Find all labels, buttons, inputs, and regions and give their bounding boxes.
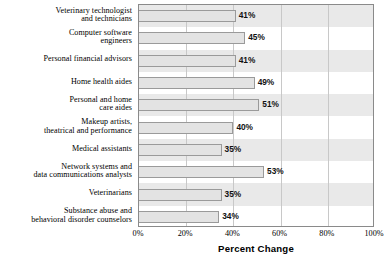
category-label-line: Personal financial advisors — [0, 55, 132, 64]
bar-value-label: 51% — [262, 99, 279, 109]
bar-value-label: 35% — [225, 189, 242, 199]
value-label-layer: 41%45%41%49%51%40%35%53%35%34% — [138, 4, 391, 227]
x-axis-tick-label: 0% — [133, 229, 144, 238]
bar-value-label: 34% — [222, 211, 239, 221]
x-axis-tick-label: 100% — [364, 229, 383, 238]
category-label-line: theatrical and performance — [0, 127, 132, 136]
bar-value-label: 53% — [267, 166, 284, 176]
category-label: Veterinarians — [0, 189, 132, 198]
horizontal-bar-chart: Veterinary technologistand techniciansCo… — [0, 0, 391, 263]
category-label: Personal financial advisors — [0, 55, 132, 64]
x-axis-tick-label: 60% — [272, 229, 287, 238]
bar-value-label: 41% — [239, 55, 256, 65]
category-label: Medical assistants — [0, 145, 132, 154]
bar-value-label: 40% — [236, 122, 253, 132]
category-label-line: and technicians — [0, 15, 132, 24]
category-label-line: behavioral disorder counselors — [0, 216, 132, 225]
category-axis: Veterinary technologistand techniciansCo… — [0, 4, 136, 227]
category-label-line: Veterinarians — [0, 189, 132, 198]
x-axis-tick-label: 80% — [319, 229, 334, 238]
category-label: Computer softwareengineers — [0, 29, 132, 46]
bar-value-label: 45% — [248, 32, 265, 42]
category-label: Network systems anddata communications a… — [0, 163, 132, 180]
category-label: Personal and homecare aides — [0, 96, 132, 113]
bar-value-label: 49% — [258, 77, 275, 87]
category-label: Makeup artists,theatrical and performanc… — [0, 118, 132, 135]
category-label: Substance abuse andbehavioral disorder c… — [0, 207, 132, 224]
category-label-line: Home health aides — [0, 78, 132, 87]
x-axis-title: Percent Change — [138, 243, 374, 254]
category-label-line: data communications analysts — [0, 171, 132, 180]
bar-value-label: 41% — [239, 10, 256, 20]
category-label: Home health aides — [0, 78, 132, 87]
category-label: Veterinary technologistand technicians — [0, 7, 132, 24]
category-label-line: care aides — [0, 104, 132, 113]
x-axis-tick-label: 20% — [178, 229, 193, 238]
x-axis-tick-labels: 0%20%40%60%80%100% — [0, 229, 391, 241]
category-label-line: Medical assistants — [0, 145, 132, 154]
bar-value-label: 35% — [225, 144, 242, 154]
x-axis-tick-label: 40% — [225, 229, 240, 238]
category-label-line: engineers — [0, 37, 132, 46]
